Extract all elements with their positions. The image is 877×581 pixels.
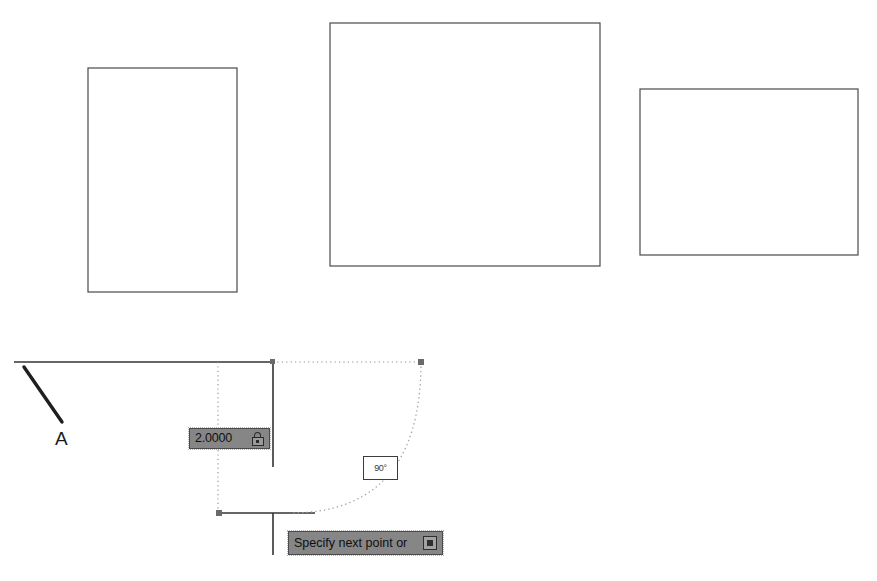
rubber-band-arc xyxy=(290,362,421,513)
command-prompt-text: Specify next point or xyxy=(294,537,407,550)
node-marker-base-point xyxy=(216,510,222,516)
dimension-input-tooltip[interactable]: 2.0000 xyxy=(189,428,270,449)
angle-readout[interactable]: 90° xyxy=(363,456,398,480)
vertex-label-a: A xyxy=(55,429,68,448)
rectangle-center[interactable] xyxy=(330,23,600,266)
angled-line-a[interactable] xyxy=(24,367,62,422)
rectangle-right[interactable] xyxy=(640,89,858,255)
cad-drawing-canvas[interactable]: A 2.0000 90° Specify next point or xyxy=(0,0,877,581)
dropdown-glyph xyxy=(427,540,433,546)
node-marker-arc-start xyxy=(418,359,424,365)
lock-keyhole xyxy=(256,440,259,444)
lock-icon[interactable] xyxy=(251,432,264,446)
cad-geometry-layer xyxy=(0,0,877,581)
node-marker-corner xyxy=(270,359,275,364)
command-prompt-tooltip[interactable]: Specify next point or xyxy=(288,531,443,555)
dropdown-box-icon[interactable] xyxy=(423,536,437,550)
rectangle-left[interactable] xyxy=(88,68,237,292)
dimension-input-value[interactable]: 2.0000 xyxy=(195,432,232,445)
